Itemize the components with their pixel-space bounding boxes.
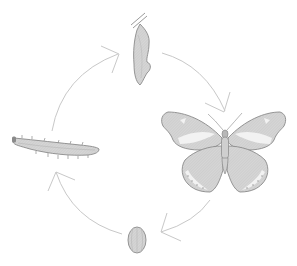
- arrow-caterpillar-to-chrysalis: [52, 46, 119, 131]
- adult-butterfly-illustration: [162, 112, 286, 192]
- arrow-adult-to-egg: [161, 200, 210, 241]
- arrow-chrysalis-to-adult: [162, 53, 230, 112]
- butterfly-life-cycle-diagram: Butterfly life cycle: [0, 0, 297, 266]
- arrow-egg-to-caterpillar: [48, 172, 122, 234]
- chrysalis-illustration: [131, 13, 150, 85]
- egg-illustration: [128, 227, 146, 253]
- caterpillar-illustration: [12, 135, 99, 159]
